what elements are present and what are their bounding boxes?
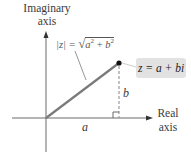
- modulus-formula: |z| = √a2 + b2: [56, 37, 114, 51]
- complex-plane-diagram: Imaginary axis Real axis |z| = √a2 + b2 …: [0, 0, 191, 157]
- imaginary-axis-arrow-icon: [44, 31, 49, 38]
- point-z: [116, 60, 121, 65]
- point-label-box: z = a + bi: [136, 58, 186, 78]
- real-axis-title-line2: axis: [152, 122, 184, 134]
- imaginary-axis-title-line1: Imaginary: [22, 3, 72, 15]
- real-axis-title-line1: Real: [152, 108, 184, 120]
- modulus-lhs: |z| =: [56, 39, 78, 50]
- real-axis-title: Real axis: [152, 108, 184, 133]
- segment-label-a: a: [82, 121, 88, 133]
- segment-label-b: b: [123, 87, 129, 99]
- modulus-plus: +: [94, 39, 105, 50]
- modulus-leader-line: [75, 51, 86, 80]
- imaginary-axis-title: Imaginary axis: [22, 3, 72, 27]
- point-leader-line: [122, 63, 136, 67]
- point-label: z = a + bi: [138, 62, 184, 74]
- modulus-b-exponent: 2: [111, 37, 115, 45]
- right-angle-marker: [113, 112, 119, 118]
- imaginary-axis-title-line2: axis: [22, 16, 72, 28]
